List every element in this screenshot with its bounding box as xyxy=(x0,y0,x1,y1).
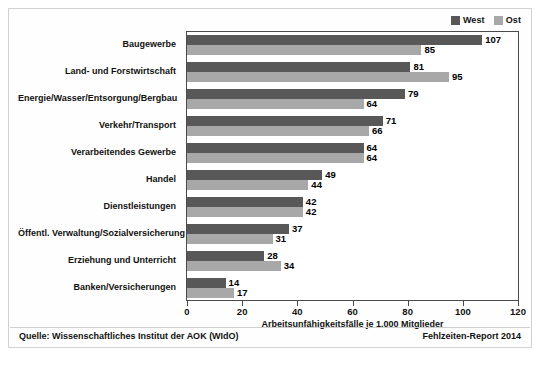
x-tick-label: 60 xyxy=(347,306,358,317)
x-tick-label: 80 xyxy=(402,306,413,317)
bar-rect xyxy=(187,224,289,234)
legend-item-west: West xyxy=(451,15,485,25)
bar-group: 10785 xyxy=(187,35,518,62)
bar-ost[interactable]: 44 xyxy=(187,180,322,190)
bar-rect xyxy=(187,45,421,55)
bar-group: 7166 xyxy=(187,116,518,143)
bar-rect xyxy=(187,62,410,72)
category-label: Baugewerbe xyxy=(18,39,176,50)
bar-west[interactable]: 64 xyxy=(187,143,377,153)
bar-value-label: 95 xyxy=(452,72,463,82)
bar-rect xyxy=(187,288,234,298)
category-label: Banken/Versicherungen xyxy=(18,282,176,293)
bar-value-label: 64 xyxy=(367,99,378,109)
chart-figure: West Ost BaugewerbeLand- und Forstwirtsc… xyxy=(8,8,532,348)
bar-ost[interactable]: 31 xyxy=(187,234,286,244)
bar-rect xyxy=(187,278,226,288)
bar-value-label: 71 xyxy=(386,116,397,126)
bar-rect xyxy=(187,99,364,109)
bar-value-label: 31 xyxy=(276,234,287,244)
category-label: Erziehung und Unterricht xyxy=(18,255,176,266)
bar-value-label: 28 xyxy=(267,251,278,261)
bar-group: 6464 xyxy=(187,143,518,170)
x-tick-label: 40 xyxy=(292,306,303,317)
chart-footer: Quelle: Wissenschaftliches Institut der … xyxy=(9,329,531,347)
bar-rect xyxy=(187,251,264,261)
bar-group: 2834 xyxy=(187,251,518,278)
bar-ost[interactable]: 64 xyxy=(187,153,377,163)
bar-rect xyxy=(187,126,369,136)
bar-rect xyxy=(187,180,308,190)
bar-value-label: 85 xyxy=(424,45,435,55)
source-note: Quelle: Wissenschaftliches Institut der … xyxy=(19,331,239,341)
bar-west[interactable]: 42 xyxy=(187,197,316,207)
bar-value-label: 81 xyxy=(413,62,424,72)
bar-rect xyxy=(187,143,364,153)
bar-value-label: 34 xyxy=(284,261,295,271)
bar-rect xyxy=(187,261,281,271)
bar-ost[interactable]: 17 xyxy=(187,288,247,298)
category-label: Verarbeitendes Gewerbe xyxy=(18,147,176,158)
bar-value-label: 37 xyxy=(292,224,303,234)
bars-container: 1078581957964716664644944424237312834141… xyxy=(187,32,518,300)
bar-rect xyxy=(187,72,449,82)
footer-divider xyxy=(10,327,530,328)
bar-ost[interactable]: 85 xyxy=(187,45,435,55)
x-tick-label: 120 xyxy=(510,306,526,317)
bar-value-label: 66 xyxy=(372,126,383,136)
bar-west[interactable]: 107 xyxy=(187,35,501,45)
bar-group: 4242 xyxy=(187,197,518,224)
x-tick-label: 100 xyxy=(455,306,471,317)
legend-label-west: West xyxy=(463,15,485,25)
bar-group: 4944 xyxy=(187,170,518,197)
bar-ost[interactable]: 64 xyxy=(187,99,377,109)
bar-value-label: 107 xyxy=(485,35,501,45)
bar-ost[interactable]: 66 xyxy=(187,126,383,136)
bar-group: 7964 xyxy=(187,89,518,116)
category-label: Land- und Forstwirtschaft xyxy=(18,66,176,77)
x-tick-label: 0 xyxy=(184,306,189,317)
bar-ost[interactable]: 95 xyxy=(187,72,463,82)
bar-west[interactable]: 71 xyxy=(187,116,396,126)
bar-value-label: 64 xyxy=(367,153,378,163)
legend-item-ost: Ost xyxy=(494,15,521,25)
bar-value-label: 79 xyxy=(408,89,419,99)
plot-area: 1078581957964716664644944424237312834141… xyxy=(186,31,519,301)
bar-rect xyxy=(187,234,273,244)
bar-west[interactable]: 81 xyxy=(187,62,424,72)
bar-ost[interactable]: 34 xyxy=(187,261,294,271)
legend-label-ost: Ost xyxy=(506,15,521,25)
x-axis-tick-labels: 020406080100120 xyxy=(186,306,519,320)
category-label: Verkehr/Transport xyxy=(18,120,176,131)
chart-legend: West Ost xyxy=(451,15,521,25)
bar-rect xyxy=(187,170,322,180)
report-note: Fehlzeiten-Report 2014 xyxy=(422,331,521,341)
bar-value-label: 17 xyxy=(237,288,248,298)
bar-west[interactable]: 28 xyxy=(187,251,278,261)
legend-swatch-west-icon xyxy=(451,16,460,25)
bar-rect xyxy=(187,116,383,126)
bar-rect xyxy=(187,197,303,207)
category-label: Dienstleistungen xyxy=(18,201,176,212)
bar-west[interactable]: 79 xyxy=(187,89,418,99)
bar-rect xyxy=(187,35,482,45)
bar-rect xyxy=(187,153,364,163)
bar-west[interactable]: 14 xyxy=(187,278,239,288)
x-tick-label: 20 xyxy=(237,306,248,317)
bar-rect xyxy=(187,207,303,217)
bar-ost[interactable]: 42 xyxy=(187,207,316,217)
bar-group: 8195 xyxy=(187,62,518,89)
category-axis-labels: BaugewerbeLand- und ForstwirtschaftEnerg… xyxy=(23,31,181,301)
bar-value-label: 44 xyxy=(311,180,322,190)
category-label: Öffentl. Verwaltung/Sozialversicherung xyxy=(18,228,176,239)
bar-group: 3731 xyxy=(187,224,518,251)
category-label: Energie/Wasser/Entsorgung/Bergbau xyxy=(18,93,176,104)
bar-value-label: 49 xyxy=(325,170,336,180)
bar-value-label: 42 xyxy=(306,207,317,217)
category-label: Handel xyxy=(18,174,176,185)
legend-swatch-ost-icon xyxy=(494,16,503,25)
